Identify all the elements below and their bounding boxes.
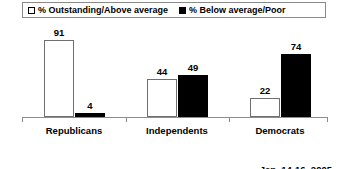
bar-value-republicans-outstanding: 91: [44, 28, 74, 38]
category-label-republicans: Republicans: [24, 125, 124, 136]
bar-value-independents-outstanding: 44: [147, 67, 177, 77]
bar-republicans-outstanding: [44, 40, 74, 117]
bar-democrats-below: [281, 54, 311, 117]
bar-chart-plot-area: 91 4 Republicans 44 49 Independents 22 7…: [0, 18, 350, 169]
axis-tick-2: [229, 117, 230, 122]
category-label-democrats: Democrats: [230, 125, 330, 136]
bar-value-democrats-below: 74: [281, 42, 311, 52]
x-axis-line: [22, 117, 328, 118]
bar-value-democrats-outstanding: 22: [250, 86, 280, 96]
chart-legend: % Outstanding/Above average % Below aver…: [22, 2, 326, 18]
bar-independents-below: [178, 75, 208, 117]
axis-tick-1: [126, 117, 127, 122]
legend-entry-below-average: % Below average/Poor: [179, 5, 286, 15]
chart-date-caption: Jan. 14-16, 2005: [260, 164, 332, 169]
bar-republicans-below: [75, 113, 105, 117]
axis-tick-end: [327, 117, 328, 122]
hollow-square-icon: [28, 7, 35, 14]
axis-tick-start: [22, 117, 23, 122]
bar-independents-outstanding: [147, 79, 177, 117]
legend-entry-outstanding: % Outstanding/Above average: [28, 5, 168, 15]
category-label-independents: Independents: [127, 125, 227, 136]
bar-democrats-outstanding: [250, 98, 280, 117]
filled-square-icon: [179, 7, 186, 14]
legend-label-below-average: % Below average/Poor: [189, 5, 286, 15]
bar-value-independents-below: 49: [178, 63, 208, 73]
legend-label-outstanding: % Outstanding/Above average: [38, 5, 168, 15]
bar-value-republicans-below: 4: [75, 101, 105, 111]
